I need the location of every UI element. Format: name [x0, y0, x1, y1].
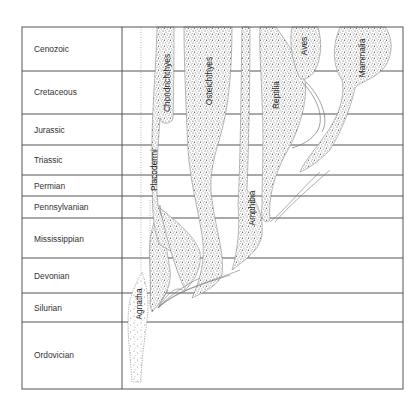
taxon-label-chondrichthyes: Chondrichthyes [162, 54, 172, 112]
period-label-jurassic: Jurassic [34, 125, 65, 135]
taxon-label-mammalia: Mammalia [357, 39, 367, 78]
period-label-mississippian: Mississippian [34, 234, 84, 244]
period-label-cenozoic: Cenozoic [34, 44, 69, 54]
period-label-ordovician: Ordovician [34, 350, 74, 360]
period-label-pennsylvanian: Pennsylvanian [34, 202, 88, 212]
taxon-label-osteichthyes: Osteichthyes [204, 57, 214, 105]
period-label-permian: Permian [34, 181, 65, 191]
taxon-label-amphibia: Amphibia [247, 191, 257, 226]
taxon-label-placodermi: Placodermi [149, 149, 159, 191]
taxon-label-agnatha: Agnatha [134, 288, 144, 319]
amphibia-band [232, 27, 262, 270]
taxon-label-reptilia: Reptilia [271, 81, 281, 109]
evolution-chart: Cenozoic Cretaceous Jurassic Triassic Pe… [0, 0, 418, 403]
period-label-silurian: Silurian [34, 303, 62, 313]
period-label-triassic: Triassic [34, 155, 63, 165]
period-label-devonian: Devonian [34, 271, 69, 281]
taxon-label-aves: Aves [299, 37, 309, 55]
period-label-cretaceous: Cretaceous [34, 87, 77, 97]
